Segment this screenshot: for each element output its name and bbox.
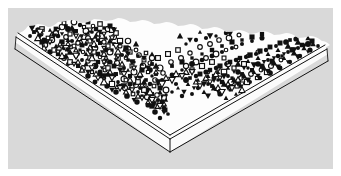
particle-circle-filled: [194, 74, 198, 78]
particle-circle-filled: [150, 74, 153, 77]
particle-square-filled: [217, 63, 222, 68]
particle-square-filled: [112, 64, 117, 69]
particle-square-open: [98, 22, 102, 26]
particle-circle-filled: [264, 48, 268, 52]
particle-square-open: [144, 51, 147, 54]
particle-circle-filled: [180, 68, 184, 72]
particle-square-filled: [257, 48, 262, 53]
particle-square-open: [82, 25, 85, 28]
particle-square-filled: [240, 38, 243, 41]
particle-square-filled: [94, 27, 98, 31]
particle-square-filled: [277, 40, 282, 45]
particle-circle-filled: [316, 44, 320, 48]
particle-circle-open: [217, 38, 222, 43]
particle-square-open: [222, 56, 226, 60]
particle-circle-open: [198, 45, 203, 50]
particle-circle-filled: [113, 89, 119, 95]
particle-square-filled: [228, 60, 233, 65]
particle-circle-filled: [174, 82, 178, 86]
particle-square-filled: [190, 56, 193, 59]
particle-circle-open: [161, 71, 165, 75]
particle-circle-filled: [203, 69, 208, 74]
particle-circle-filled: [286, 50, 290, 54]
particle-circle-filled: [220, 50, 224, 54]
particle-circle-filled: [200, 58, 205, 63]
particle-square-filled: [102, 26, 105, 29]
particle-square-filled: [64, 24, 68, 28]
particle-circle-filled: [148, 82, 153, 87]
particle-circle-open: [204, 56, 209, 61]
particle-circle-filled: [240, 42, 244, 46]
particle-square-filled: [260, 32, 264, 36]
particle-square-open: [68, 32, 72, 36]
particle-square-open: [210, 60, 215, 65]
particle-square-open: [176, 48, 181, 53]
particle-circle-open: [279, 58, 283, 62]
particle-square-filled: [170, 64, 174, 68]
particle-circle-open: [134, 48, 138, 52]
particle-square-open: [152, 84, 156, 88]
particle-circle-filled: [190, 92, 194, 96]
particle-circle-filled: [230, 46, 234, 50]
particle-square-filled: [238, 56, 242, 60]
v-trough-diagram: [0, 0, 341, 176]
particle-square-filled: [200, 52, 203, 55]
particle-circle-filled: [180, 94, 184, 98]
particle-square-filled: [98, 41, 102, 45]
particle-circle-open: [76, 41, 80, 45]
particle-circle-filled: [166, 112, 170, 116]
particle-circle-open: [188, 51, 192, 55]
particle-square-open: [166, 52, 171, 57]
particle-circle-filled: [189, 61, 195, 67]
particle-square-open: [156, 56, 161, 61]
particle-square-filled: [96, 60, 100, 64]
particle-circle-filled: [204, 36, 208, 40]
particle-circle-filled: [184, 42, 187, 45]
particle-circle-filled: [78, 23, 82, 27]
particle-square-filled: [210, 48, 214, 52]
particle-circle-open: [169, 60, 174, 65]
particle-square-filled: [32, 30, 36, 34]
particle-circle-filled: [266, 58, 270, 62]
particle-square-filled: [78, 48, 81, 51]
particle-square-open: [72, 44, 76, 48]
particle-square-filled: [268, 45, 273, 50]
particle-circle-filled: [224, 62, 228, 66]
particle-square-open: [242, 62, 247, 67]
figure-root: V-shaped trough cross-section filled wit…: [0, 0, 341, 176]
particle-circle-open: [237, 33, 241, 37]
particle-circle-open: [224, 48, 228, 52]
particle-square-filled: [247, 52, 252, 57]
particle-square-filled: [208, 68, 212, 72]
particle-square-filled: [198, 72, 203, 77]
particle-circle-filled: [28, 34, 32, 38]
particle-square-filled: [136, 54, 139, 57]
particle-circle-filled: [170, 90, 174, 94]
particle-circle-open: [149, 55, 154, 60]
particle-circle-filled: [250, 39, 254, 43]
particle-square-filled: [96, 52, 101, 57]
particle-square-filled: [150, 62, 154, 66]
particle-circle-filled: [259, 35, 264, 40]
particle-square-filled: [249, 34, 254, 39]
particle-circle-open: [81, 50, 84, 53]
particle-square-open: [109, 81, 114, 86]
particle-square-filled: [220, 44, 224, 48]
particle-circle-open: [234, 45, 238, 49]
particle-square-filled: [280, 54, 283, 57]
particle-circle-filled: [194, 38, 198, 42]
particle-square-filled: [229, 39, 234, 44]
particle-circle-filled: [158, 116, 162, 120]
particle-circle-open: [125, 38, 130, 43]
particle-circle-filled: [276, 54, 281, 59]
particle-circle-open: [208, 42, 213, 47]
particle-square-filled: [188, 76, 192, 80]
particle-circle-open: [163, 87, 169, 93]
particle-square-filled: [288, 38, 292, 42]
particle-square-filled: [76, 64, 80, 68]
particle-circle-filled: [152, 109, 158, 115]
particle-circle-filled: [214, 34, 217, 37]
particle-circle-filled: [210, 54, 215, 59]
particle-circle-filled: [274, 44, 278, 48]
particle-square-filled: [179, 59, 184, 64]
